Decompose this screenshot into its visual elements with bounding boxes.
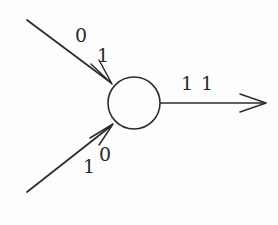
input-upper-label-1: 1 (97, 46, 109, 65)
diagram-svg (0, 0, 278, 225)
input-lower-label-0: 0 (99, 145, 111, 164)
diagram-canvas: 0 1 1 0 1 1 (0, 0, 278, 225)
input-lower-label-1: 1 (83, 157, 95, 176)
output-label-first: 1 (181, 74, 193, 93)
output-arrow (160, 94, 266, 112)
output-label-second: 1 (201, 74, 213, 93)
input-upper-label-0: 0 (75, 26, 87, 45)
node-circle (108, 77, 160, 129)
